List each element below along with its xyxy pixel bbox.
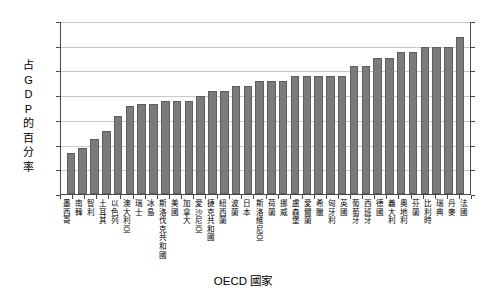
x-axis-label-slot: 挪威	[278, 200, 290, 262]
x-axis-tick-mark	[229, 195, 230, 199]
bar-slot	[112, 22, 124, 194]
x-axis-label-slot: 紐西蘭	[217, 200, 229, 262]
x-axis-tick-mark	[60, 195, 61, 199]
x-axis-label-slot: 葡萄牙	[350, 200, 362, 262]
y-axis-tick-mark-right	[471, 22, 475, 23]
x-axis-label-slot: 美國	[169, 200, 181, 262]
x-axis-label-slot: 以色列	[109, 200, 121, 262]
x-axis-tick-mark	[133, 195, 134, 199]
x-axis-label-slot: 澳大利亞	[121, 200, 133, 262]
y-axis-tick-mark-right	[471, 121, 475, 122]
x-axis-category-label: 瑞士	[135, 200, 144, 262]
bar-slot	[65, 22, 77, 194]
x-axis-label-slot: 墨西哥	[61, 200, 73, 262]
y-axis-tick-mark-right	[471, 96, 475, 97]
x-axis-label-slot: 愛爾蘭	[302, 200, 314, 262]
x-axis-category-label: 挪威	[279, 200, 288, 262]
bar	[279, 81, 287, 194]
x-axis-tick-mark	[108, 195, 109, 199]
bar	[421, 47, 429, 194]
bar-slot	[242, 22, 254, 194]
x-axis-category-label: 英國	[339, 200, 348, 262]
bar	[255, 81, 263, 194]
bar-series	[62, 22, 469, 194]
bar	[114, 116, 122, 194]
x-axis-label-slot: 瑞士	[133, 200, 145, 262]
x-axis-tick-mark	[120, 195, 121, 199]
bar-slot	[348, 22, 360, 194]
y-axis-tick-mark	[56, 22, 60, 23]
bar	[220, 91, 228, 194]
y-axis-tick-mark-right	[471, 146, 475, 147]
x-axis-category-label: 加拿大	[183, 200, 192, 262]
x-axis-label-slot: 瑞典	[434, 200, 446, 262]
x-axis-category-label: 義大利	[387, 200, 396, 262]
bar	[373, 58, 381, 194]
x-axis-tick-mark	[314, 195, 315, 199]
bar-slot	[207, 22, 219, 194]
x-axis-title: OECD 國家	[0, 272, 486, 288]
x-axis-label-slot: 西班牙	[362, 200, 374, 262]
x-axis-tick-mark	[302, 195, 303, 199]
x-axis-tick-mark	[278, 195, 279, 199]
y-axis-title-char: 分	[20, 145, 37, 160]
bar-slot	[419, 22, 431, 194]
x-axis-tick-mark	[169, 195, 170, 199]
x-axis-label-slot: 法國	[458, 200, 470, 262]
bar-slot	[313, 22, 325, 194]
x-axis-label-slot: 加拿大	[181, 200, 193, 262]
x-axis-category-label: 愛爾蘭	[303, 200, 312, 262]
x-axis-category-label: 紐西蘭	[219, 200, 228, 262]
x-axis-label-slot: 斯洛維尼亞	[254, 200, 266, 262]
x-axis-category-label: 日本	[243, 200, 252, 262]
y-axis-tick-mark	[56, 96, 60, 97]
x-axis-tick-mark	[471, 195, 472, 199]
bar-slot	[89, 22, 101, 194]
x-axis-label-slot: 比利時	[422, 200, 434, 262]
x-axis-category-label: 美國	[171, 200, 180, 262]
x-axis-label-slot: 南韓	[73, 200, 85, 262]
x-axis-tick-mark	[96, 195, 97, 199]
bar-slot	[443, 22, 455, 194]
bar	[432, 47, 440, 194]
x-axis-tick-mark	[145, 195, 146, 199]
bar	[244, 86, 252, 194]
x-axis-category-label: 德國	[375, 200, 384, 262]
x-axis-category-label: 澳大利亞	[123, 200, 132, 262]
bar-slot	[395, 22, 407, 194]
bar-slot	[336, 22, 348, 194]
bar	[232, 86, 240, 194]
x-axis-label-slot: 丹麥	[446, 200, 458, 262]
bar	[326, 76, 334, 194]
bar	[409, 52, 417, 194]
x-axis-tick-mark	[205, 195, 206, 199]
x-axis-label-slot: 捷克共和國	[205, 200, 217, 262]
bar-slot	[218, 22, 230, 194]
bar	[149, 104, 157, 194]
bar-slot	[136, 22, 148, 194]
bar-slot	[372, 22, 384, 194]
y-axis-title-char: 的	[20, 116, 37, 131]
bar	[78, 148, 86, 194]
x-axis-category-label: 西班牙	[363, 200, 372, 262]
x-axis-tick-mark	[326, 195, 327, 199]
x-axis-ticks	[60, 195, 471, 199]
bar-slot	[360, 22, 372, 194]
x-axis-label-slot: 冰島	[145, 200, 157, 262]
bar	[185, 101, 193, 194]
bar	[338, 76, 346, 194]
x-axis-tick-mark	[217, 195, 218, 199]
bar-slot	[124, 22, 136, 194]
bar	[314, 76, 322, 194]
x-axis-label-slot: 斯洛伐克共和國	[157, 200, 169, 262]
x-axis-tick-mark	[253, 195, 254, 199]
bar-slot	[407, 22, 419, 194]
x-axis-category-label: 南韓	[75, 200, 84, 262]
x-axis-category-label: 愛沙尼亞	[195, 200, 204, 262]
x-axis-tick-mark	[266, 195, 267, 199]
bar-slot	[325, 22, 337, 194]
x-axis-category-label: 瑞典	[435, 200, 444, 262]
bar-slot	[454, 22, 466, 194]
bar	[137, 104, 145, 194]
bar	[397, 52, 405, 194]
